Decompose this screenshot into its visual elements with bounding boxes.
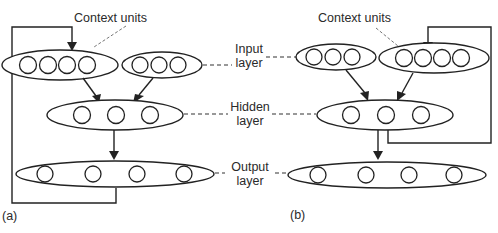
output-unit	[176, 166, 192, 182]
arrow-input-to-hidden-b	[346, 70, 365, 93]
arrowhead	[397, 91, 406, 101]
hidden-layer-a	[47, 100, 183, 130]
context-unit	[40, 57, 57, 74]
context-layer-b	[379, 43, 489, 73]
output-layer-a	[16, 161, 214, 187]
input-unit	[170, 57, 186, 73]
output-unit	[85, 166, 101, 182]
output-unit	[129, 166, 145, 182]
context-leader-b	[376, 28, 398, 46]
input-unit	[132, 57, 148, 73]
context-units-label-a: Context units	[74, 11, 147, 25]
layer-labels: Input layer Hidden layer Output layer	[184, 42, 316, 188]
context-unit	[59, 57, 76, 74]
context-layer-a	[2, 50, 118, 80]
output-unit	[310, 167, 326, 183]
input-unit	[151, 57, 167, 73]
context-unit	[453, 50, 470, 67]
panel-b: Context units	[288, 11, 491, 222]
input-layer-b	[296, 44, 376, 70]
output-unit	[37, 166, 53, 182]
arrowhead	[360, 91, 369, 101]
hidden-unit	[142, 107, 159, 124]
panel-label-b: (b)	[290, 208, 305, 222]
hidden-layer-b	[317, 100, 453, 130]
hidden-unit	[378, 107, 395, 124]
arrow-input-to-hidden-a	[139, 78, 153, 95]
hidden-layer-label-line1: Hidden	[230, 100, 270, 114]
hidden-unit	[413, 107, 430, 124]
context-unit	[20, 57, 37, 74]
hidden-unit	[74, 107, 91, 124]
input-layer-a	[122, 52, 202, 78]
panel-a: Context units	[2, 11, 214, 223]
context-unit	[79, 57, 96, 74]
output-layer-b	[288, 162, 486, 188]
arrow-context-to-hidden-a	[83, 78, 96, 96]
arrowhead	[109, 151, 119, 160]
context-leader-a	[94, 26, 126, 47]
output-unit	[358, 167, 374, 183]
output-unit	[401, 167, 417, 183]
context-unit	[396, 50, 413, 67]
output-layer-label-line1: Output	[231, 160, 269, 174]
panel-label-a: (a)	[2, 209, 17, 223]
context-units-label-b: Context units	[318, 11, 391, 25]
output-layer-label-line2: layer	[236, 174, 263, 188]
input-unit	[325, 49, 341, 65]
output-unit	[446, 167, 462, 183]
hidden-layer-label-line2: layer	[236, 114, 263, 128]
input-layer-label-line1: Input	[235, 42, 263, 56]
input-unit	[344, 49, 360, 65]
arrow-context-to-hidden-b	[402, 73, 413, 93]
hidden-unit	[108, 107, 125, 124]
context-unit	[434, 50, 451, 67]
hidden-unit	[343, 107, 360, 124]
rnn-diagram: Context units	[0, 0, 498, 233]
context-unit	[415, 50, 432, 67]
arrowhead	[373, 151, 383, 160]
input-unit	[306, 49, 322, 65]
input-layer-label-line2: layer	[235, 56, 262, 70]
